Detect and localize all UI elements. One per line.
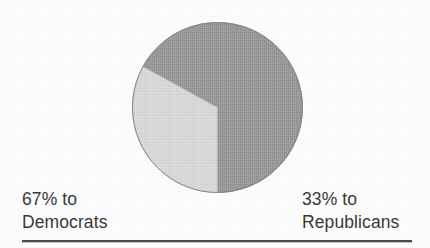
pie-chart <box>132 22 303 193</box>
pie-label-democrats-percent: 67% to <box>22 188 108 211</box>
pie-label-democrats: 67% to Democrats <box>22 188 108 234</box>
pie-label-republicans-percent: 33% to <box>302 188 399 211</box>
pie-chart-svg <box>132 22 303 193</box>
pie-chart-figure: 67% to Democrats 33% to Republicans <box>0 0 430 248</box>
pie-label-republicans-name: Republicans <box>302 211 399 234</box>
pie-label-democrats-name: Democrats <box>22 211 108 234</box>
pie-label-republicans: 33% to Republicans <box>302 188 399 234</box>
figure-baseline-rule <box>22 240 412 242</box>
